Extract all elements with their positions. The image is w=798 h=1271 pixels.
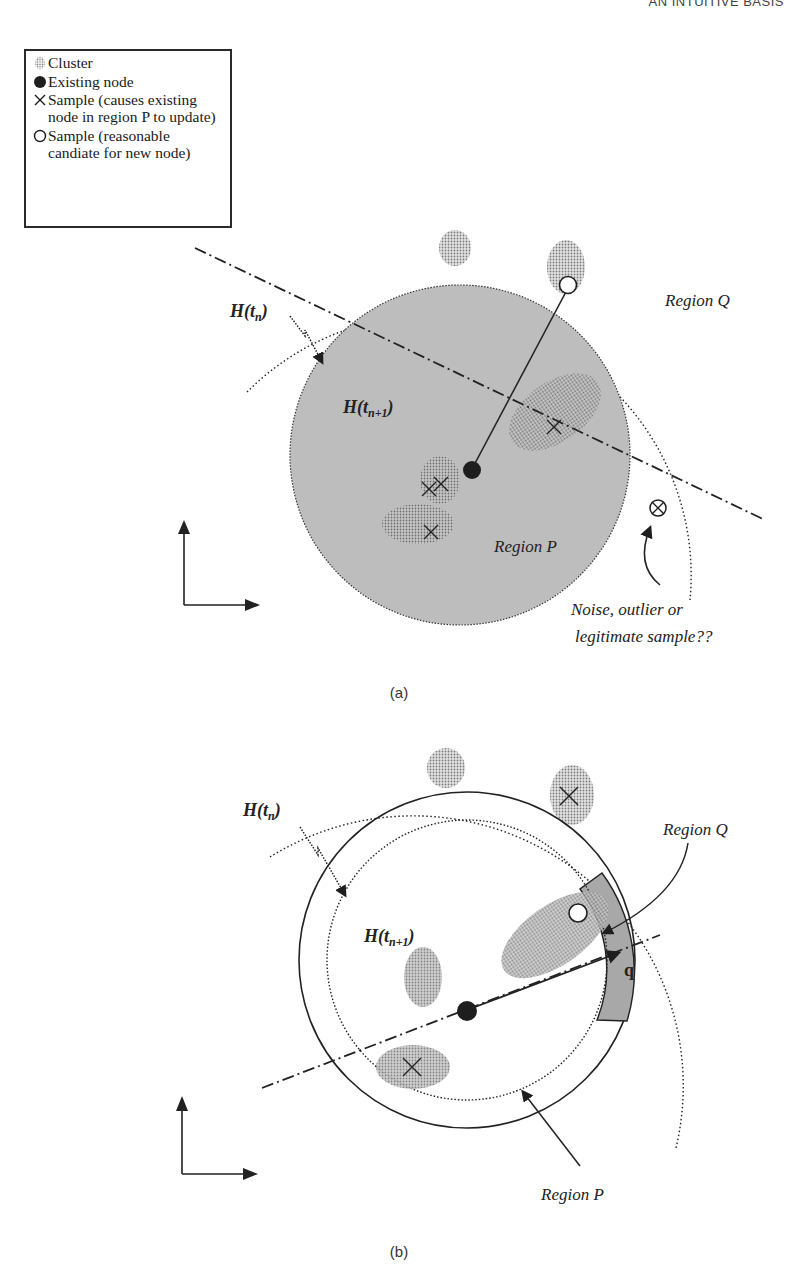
annotation-arrow xyxy=(644,528,660,585)
region-p-label: Region P xyxy=(540,1185,604,1204)
diagram-a: H(tn) H(tn+1) Region Q Region P Noise, o… xyxy=(178,230,765,646)
region-p-circle xyxy=(290,285,630,625)
axes-icon xyxy=(184,525,252,605)
cluster-blob xyxy=(382,504,454,544)
cluster-blob xyxy=(550,765,594,825)
existing-node xyxy=(463,461,481,479)
candidate-sample xyxy=(560,277,577,294)
caption-a: (a) xyxy=(390,684,408,701)
cluster-blob xyxy=(404,947,442,1007)
annotation-text: legitimate sample?? xyxy=(575,627,713,646)
region-p-leader xyxy=(523,1092,580,1166)
region-q-label: Region Q xyxy=(664,291,730,310)
solid-boundary-circle xyxy=(299,792,635,1128)
cluster-blob xyxy=(376,1045,450,1089)
candidate-sample xyxy=(569,904,587,922)
annotation-text: Noise, outlier or xyxy=(570,600,683,619)
caption-b: (b) xyxy=(390,1243,408,1260)
outlier-sample xyxy=(650,500,666,516)
cluster-blob xyxy=(427,748,465,788)
cluster-blob xyxy=(420,456,460,504)
axes-icon xyxy=(182,1102,250,1174)
existing-node xyxy=(457,1001,477,1021)
svg-text:H(tn+1): H(tn+1) xyxy=(363,926,415,949)
figure-canvas: H(tn) H(tn+1) Region Q Region P Noise, o… xyxy=(0,0,798,1271)
cluster-blob xyxy=(439,230,471,266)
diagram-b: H(tn) H(tn+1) Region Q Region P q xyxy=(176,748,728,1204)
vector-q-label: q xyxy=(624,960,634,980)
region-q-label: Region Q xyxy=(662,820,728,839)
svg-text:H(tn): H(tn) xyxy=(242,800,281,823)
shrink-arrow xyxy=(300,827,345,895)
svg-text:H(tn): H(tn) xyxy=(229,301,268,324)
shrink-arrow xyxy=(290,316,322,362)
region-p-label: Region P xyxy=(493,537,557,556)
